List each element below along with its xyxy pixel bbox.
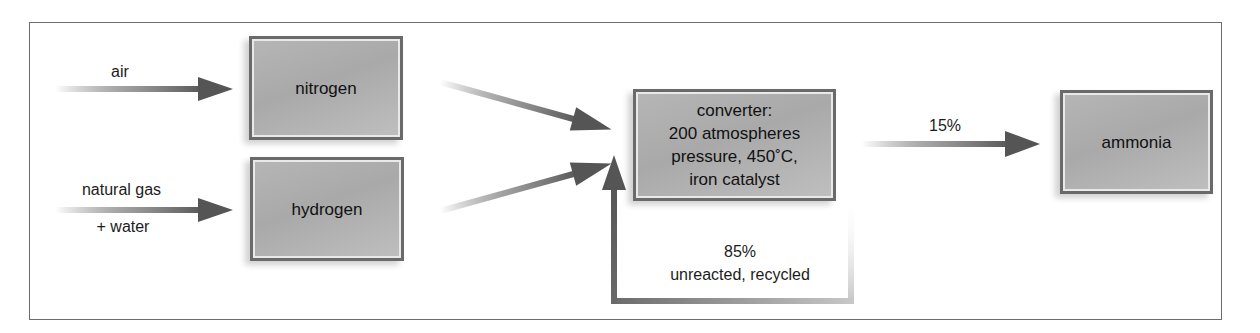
converter-line-4: iron catalyst: [689, 168, 780, 191]
arrow-air-to-nitrogen: [55, 77, 233, 101]
node-ammonia-label: ammonia: [1102, 131, 1172, 154]
input-label-water: + water: [88, 218, 158, 236]
input-label-air: air: [100, 63, 140, 81]
recycle-percent-label: 85%: [710, 243, 770, 261]
converter-line-2: 200 atmospheres: [669, 122, 800, 145]
node-ammonia: ammonia: [1060, 90, 1213, 194]
recycle-description-label: unreacted, recycled: [660, 266, 820, 284]
node-converter: converter: 200 atmospheres pressure, 450…: [633, 89, 836, 201]
node-nitrogen: nitrogen: [249, 36, 403, 140]
node-hydrogen-label: hydrogen: [292, 198, 363, 221]
converter-line-3: pressure, 450˚C,: [671, 145, 798, 168]
node-hydrogen: hydrogen: [250, 157, 404, 261]
node-nitrogen-label: nitrogen: [295, 77, 356, 100]
arrow-hydrogen-to-converter: [437, 152, 615, 223]
converter-line-1: converter:: [697, 99, 773, 122]
output-percent-label: 15%: [920, 117, 970, 135]
arrow-nitrogen-to-converter: [437, 70, 615, 141]
input-label-natural-gas: natural gas: [74, 181, 169, 199]
